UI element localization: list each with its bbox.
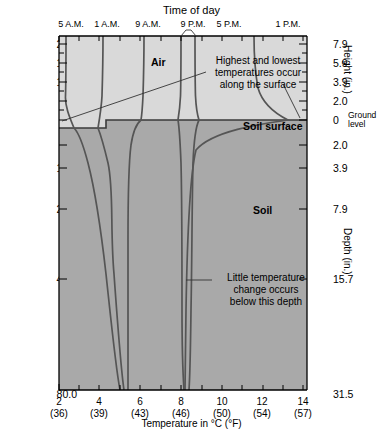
- surface-annotation: Highest and lowest temperatures occur al…: [199, 55, 317, 90]
- depth-annotation: Little temperature change occurs below t…: [214, 272, 318, 307]
- plot-area: [0, 0, 383, 435]
- soil-air-temperature-figure: Time of day 5 A.M. 1 A.M. 9 A.M. 9 P.M. …: [0, 0, 383, 435]
- soil-surface-label: Soil surface: [243, 121, 303, 132]
- soil-region-label: Soil: [253, 205, 272, 216]
- air-region-label: Air: [151, 57, 166, 68]
- time-label-pointers: [181, 30, 196, 36]
